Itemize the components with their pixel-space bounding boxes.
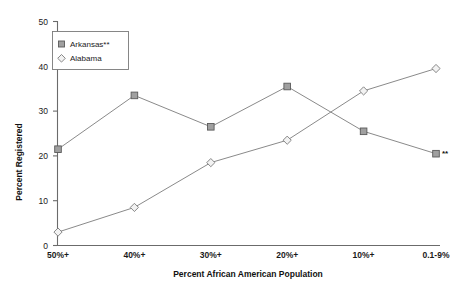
data-point-marker — [131, 92, 138, 99]
data-point-marker — [208, 124, 215, 131]
data-point-marker — [55, 146, 62, 153]
chart-canvas: 50 40 30 20 10 0 Percent Registered 50%+… — [0, 0, 460, 291]
y-tick-label-30: 30 — [39, 106, 49, 116]
x-tick-label-3: 20%+ — [276, 250, 298, 260]
series-line — [58, 87, 436, 154]
x-tick-label-5: 0.1-9% — [423, 250, 450, 260]
line-chart: 50 40 30 20 10 0 Percent Registered 50%+… — [0, 0, 460, 291]
series-alabama — [54, 64, 440, 236]
data-point-marker — [433, 150, 440, 157]
data-point-marker — [360, 128, 367, 135]
legend-label-alabama: Alabama — [70, 54, 102, 63]
x-axis-title: Percent African American Population — [173, 269, 323, 279]
data-point-marker — [283, 136, 291, 144]
data-point-marker — [207, 159, 215, 167]
data-point-marker — [54, 228, 62, 236]
data-point-marker — [130, 203, 138, 211]
y-tick-label-20: 20 — [39, 151, 49, 161]
series-arkansas — [55, 83, 440, 157]
x-tick-label-1: 40%+ — [123, 250, 145, 260]
legend-label-arkansas: Arkansas** — [70, 40, 110, 49]
data-point-marker — [360, 87, 368, 95]
data-point-marker — [284, 83, 291, 90]
annotation-asterisks: ** — [442, 149, 449, 158]
y-axis-title: Percent Registered — [14, 123, 24, 200]
y-tick-label-40: 40 — [39, 62, 49, 72]
square-marker-icon — [59, 41, 65, 47]
x-tick-label-4: 10%+ — [353, 250, 375, 260]
x-tick-label-0: 50%+ — [47, 250, 69, 260]
legend-box — [53, 32, 129, 70]
y-tick-label-10: 10 — [39, 196, 49, 206]
series-layer — [54, 64, 440, 236]
data-point-marker — [432, 64, 440, 72]
x-tick-label-2: 30%+ — [200, 250, 222, 260]
y-tick-label-50: 50 — [39, 17, 49, 27]
series-line — [58, 69, 436, 233]
legend: Arkansas** Alabama — [53, 32, 129, 70]
